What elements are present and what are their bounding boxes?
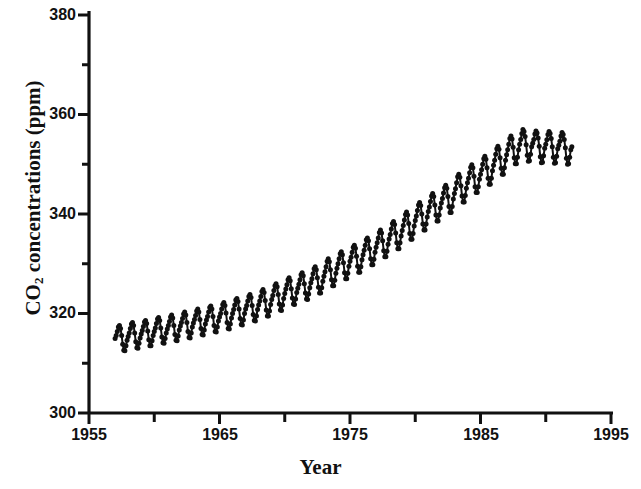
data-point-marker	[319, 285, 324, 290]
x-tick-label-1975: 1975	[320, 426, 380, 444]
data-point-marker	[498, 155, 503, 160]
data-point-marker	[362, 248, 367, 253]
data-point-marker	[418, 203, 423, 208]
data-point-marker	[467, 170, 472, 175]
data-point-marker	[541, 153, 546, 158]
data-point-marker	[388, 232, 393, 237]
data-point-marker	[276, 292, 281, 297]
data-point-marker	[150, 338, 155, 343]
data-point-marker	[470, 165, 475, 170]
data-point-marker	[209, 307, 214, 312]
data-point-marker	[386, 242, 391, 247]
data-point-marker	[517, 142, 522, 147]
data-point-marker	[566, 161, 571, 166]
data-point-marker	[157, 318, 162, 323]
data-point-marker	[267, 309, 272, 314]
data-point-marker	[341, 260, 346, 265]
data-point-marker	[282, 291, 287, 296]
data-point-marker	[318, 291, 323, 296]
data-point-marker	[431, 194, 436, 199]
data-point-marker	[380, 238, 385, 243]
data-point-marker	[425, 214, 430, 219]
data-point-marker	[501, 172, 506, 177]
data-point-marker	[163, 336, 168, 341]
data-point-marker	[511, 145, 516, 150]
data-point-marker	[488, 182, 493, 187]
data-point-marker	[241, 317, 246, 322]
data-point-marker	[201, 332, 206, 337]
data-point-marker	[396, 246, 401, 251]
data-point-marker	[535, 130, 540, 135]
data-point-marker	[237, 307, 242, 312]
data-point-marker	[454, 180, 459, 185]
data-point-marker	[153, 325, 158, 330]
data-point-marker	[451, 197, 456, 202]
data-point-marker	[358, 264, 363, 269]
data-point-marker	[419, 212, 424, 217]
y-tick-label-300: 300	[18, 404, 76, 422]
data-point-marker	[439, 201, 444, 206]
data-point-marker	[137, 341, 142, 346]
data-point-marker	[366, 238, 371, 243]
data-point-marker	[340, 252, 345, 257]
data-point-marker	[293, 297, 298, 302]
data-point-marker	[543, 142, 548, 147]
data-point-marker	[444, 186, 449, 191]
data-point-marker	[320, 279, 325, 284]
data-point-marker	[557, 139, 562, 144]
data-point-marker	[257, 299, 262, 304]
data-point-marker	[322, 269, 327, 274]
data-point-marker	[374, 245, 379, 250]
data-point-marker	[175, 338, 180, 343]
data-point-marker	[462, 200, 467, 205]
data-point-marker	[567, 155, 572, 160]
data-point-marker	[427, 205, 432, 210]
data-point-marker	[210, 314, 215, 319]
data-point-marker	[229, 315, 234, 320]
data-point-marker	[423, 227, 428, 232]
data-point-marker	[367, 246, 372, 251]
co2-concentration-chart: 380 360 340 320 300 1955 1965 1975 1985 …	[0, 0, 641, 489]
data-point-marker	[270, 293, 275, 298]
data-point-marker	[531, 137, 536, 142]
data-point-marker	[436, 218, 441, 223]
data-point-marker	[258, 294, 263, 299]
data-point-marker	[280, 303, 285, 308]
data-point-marker	[297, 277, 302, 282]
data-point-marker	[373, 250, 378, 255]
data-point-marker	[522, 129, 527, 134]
x-tick-label-1995: 1995	[581, 426, 641, 444]
data-point-marker	[266, 313, 271, 318]
data-point-marker	[170, 315, 175, 320]
data-point-marker	[387, 236, 392, 241]
data-point-marker	[224, 311, 229, 316]
data-point-marker	[279, 308, 284, 313]
data-point-marker	[399, 233, 404, 238]
data-point-marker	[135, 346, 140, 351]
data-point-marker	[476, 184, 481, 189]
data-point-marker	[334, 266, 339, 271]
data-point-marker	[561, 132, 566, 137]
data-point-marker	[301, 273, 306, 278]
data-point-marker	[503, 158, 508, 163]
data-point-marker	[332, 278, 337, 283]
data-point-marker	[361, 252, 366, 257]
data-point-marker	[228, 321, 233, 326]
x-tick-label-1965: 1965	[190, 426, 250, 444]
data-point-marker	[438, 206, 443, 211]
data-point-marker	[471, 174, 476, 179]
data-point-marker	[344, 276, 349, 281]
data-point-marker	[489, 176, 494, 181]
data-point-marker	[401, 223, 406, 228]
data-point-marker	[440, 196, 445, 201]
data-point-marker	[214, 329, 219, 334]
data-point-marker	[393, 230, 398, 235]
data-point-marker	[215, 324, 220, 329]
data-point-marker	[218, 311, 223, 316]
data-point-marker	[493, 152, 498, 157]
data-point-marker	[254, 313, 259, 318]
data-point-marker	[540, 160, 545, 165]
data-point-marker	[288, 278, 293, 283]
data-point-marker	[305, 297, 310, 302]
data-point-marker	[554, 154, 559, 159]
